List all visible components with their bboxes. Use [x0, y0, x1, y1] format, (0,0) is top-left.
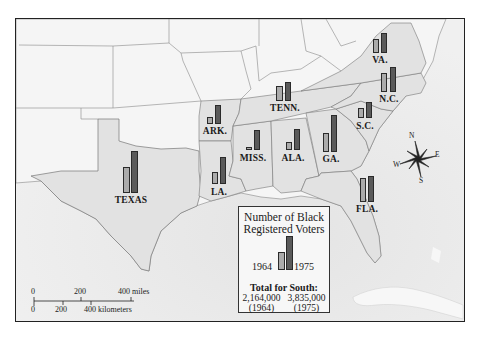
scale-miles-0: 0	[31, 287, 35, 296]
legend-year-1975: 1975	[294, 261, 314, 272]
bar-1964-tennessee	[276, 86, 283, 101]
bar-1975-georgia	[331, 115, 337, 152]
bar-1964-arkansas	[207, 117, 213, 124]
bar-1975-south-carolina	[366, 102, 372, 118]
compass-e: E	[435, 150, 440, 159]
bar-1964-virginia	[373, 39, 379, 53]
state-label-north-carolina: N.C.	[379, 94, 398, 104]
scale-km-200: 200	[55, 305, 67, 314]
state-label-louisiana: LA.	[211, 187, 227, 197]
state-label-alabama: ALA.	[281, 153, 304, 163]
legend-title-line2: Registered Voters	[239, 223, 329, 235]
legend-total-1975-year: (1975)	[294, 304, 319, 314]
legend-bar-1964	[278, 252, 285, 270]
bar-1964-north-carolina	[381, 73, 387, 92]
compass-w: W	[393, 160, 400, 169]
bar-1964-texas	[123, 167, 130, 193]
state-label-tennessee: TENN.	[270, 103, 300, 113]
state-label-texas: TEXAS	[115, 195, 148, 205]
bar-1964-alabama	[286, 142, 292, 150]
state-label-georgia: GA.	[322, 154, 339, 164]
scale-km-400: 400 kilometers	[84, 305, 132, 314]
bar-1975-virginia	[381, 33, 387, 53]
bar-1964-louisiana	[212, 172, 218, 184]
bar-1975-mississippi	[254, 130, 260, 150]
bar-1975-florida	[368, 176, 374, 202]
bar-1975-tennessee	[285, 82, 291, 101]
scale-km-0: 0	[31, 305, 35, 314]
bar-1964-south-carolina	[358, 108, 364, 118]
compass-s: S	[419, 176, 423, 185]
bar-1964-florida	[360, 178, 366, 202]
legend-totals: 2,164,000 3,835,000 (1964) (1975)	[239, 294, 329, 313]
bar-1975-arkansas	[215, 105, 221, 124]
state-label-florida: FLA.	[356, 204, 378, 214]
legend-box: Number of Black Registered Voters 1964 1…	[238, 206, 330, 313]
scale-miles-400: 400 miles	[118, 287, 149, 296]
bar-1975-alabama	[294, 129, 300, 150]
state-label-south-carolina: S.C.	[356, 121, 374, 131]
bar-1975-louisiana	[220, 157, 226, 184]
bar-1964-mississippi	[246, 147, 252, 150]
legend-total-heading: Total for South:	[239, 282, 329, 293]
legend-bar-1975	[286, 236, 293, 270]
legend-total-1964-year: (1964)	[249, 304, 274, 314]
bar-1964-georgia	[323, 133, 329, 152]
legend-title-line1: Number of Black	[239, 211, 329, 223]
state-label-mississippi: MISS.	[240, 153, 267, 163]
bar-1975-north-carolina	[390, 67, 396, 92]
compass-n: N	[409, 131, 414, 140]
legend-year-1964: 1964	[252, 261, 272, 272]
state-label-arkansas: ARK.	[203, 126, 227, 136]
scale-miles-200: 200	[74, 287, 86, 296]
bar-1975-texas	[131, 151, 138, 193]
state-label-virginia: VA.	[372, 55, 387, 65]
